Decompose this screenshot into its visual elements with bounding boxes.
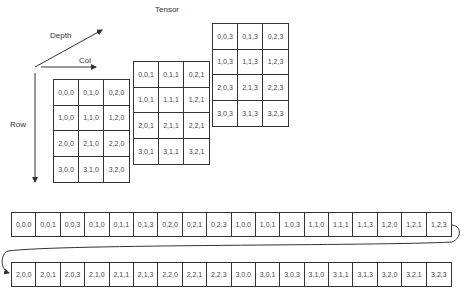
tensor-cell: 3,2,0: [104, 157, 129, 183]
tensor-cell: 0,0,3: [213, 24, 238, 50]
tensor-cell: 3,1,0: [79, 157, 104, 183]
tensor-cell: 2,0,0: [54, 131, 79, 157]
tensor-slice-depth-0: 0,0,0 0,1,0 0,2,0 1,0,0 1,1,0 1,2,0 2,0,…: [53, 79, 130, 183]
tensor-cell: 0,2,0: [104, 80, 129, 106]
col-axis-label: Col: [79, 56, 91, 65]
memory-cell: 0,0,1: [36, 213, 60, 236]
memory-cell: 1,2,3: [427, 213, 451, 236]
tensor-cell: 1,0,3: [213, 50, 238, 76]
tensor-cell: 2,2,1: [184, 113, 209, 139]
tensor-cell: 1,0,0: [54, 106, 79, 132]
memory-cell: 2,0,0: [12, 263, 36, 286]
tensor-cell: 3,0,1: [134, 139, 159, 165]
memory-cell: 1,0,0: [232, 213, 256, 236]
memory-cell: 3,1,3: [353, 263, 377, 286]
memory-cell: 0,1,0: [85, 213, 109, 236]
tensor-cell: 0,2,3: [263, 24, 288, 50]
row-axis-label: Row: [10, 120, 26, 129]
memory-cell: 2,0,3: [61, 263, 85, 286]
tensor-cell: 2,2,3: [263, 75, 288, 101]
tensor-cell: 0,0,0: [54, 80, 79, 106]
tensor-cell: 1,2,1: [184, 88, 209, 114]
memory-cell: 0,0,3: [61, 213, 85, 236]
tensor-cell: 1,2,0: [104, 106, 129, 132]
memory-cell: 3,1,0: [305, 263, 329, 286]
tensor-cell: 3,1,1: [159, 139, 184, 165]
tensor-cell: 2,2,0: [104, 131, 129, 157]
memory-cell: 2,1,0: [85, 263, 109, 286]
memory-cell: 3,0,3: [280, 263, 304, 286]
memory-cell: 3,2,3: [427, 263, 451, 286]
tensor-cell: 2,1,3: [238, 75, 263, 101]
tensor-cell: 0,2,1: [184, 62, 209, 88]
memory-cell: 1,0,3: [280, 213, 304, 236]
tensor-cell: 1,1,0: [79, 106, 104, 132]
tensor-cell: 3,0,3: [213, 101, 238, 127]
memory-cell: 2,0,1: [36, 263, 60, 286]
tensor-cell: 3,2,1: [184, 139, 209, 165]
memory-cell: 3,2,0: [378, 263, 402, 286]
memory-cell: 1,2,0: [378, 213, 402, 236]
memory-cell: 2,2,1: [183, 263, 207, 286]
tensor-cell: 1,0,1: [134, 88, 159, 114]
memory-cell: 1,2,1: [402, 213, 426, 236]
linear-layout-row-2: 2,0,0 2,0,1 2,0,3 2,1,0 2,1,1 2,1,3 2,2,…: [11, 262, 452, 287]
tensor-title: Tensor: [155, 5, 179, 14]
tensor-cell: 2,0,1: [134, 113, 159, 139]
memory-cell: 0,0,0: [12, 213, 36, 236]
tensor-slice-depth-3: 0,0,3 0,1,3 0,2,3 1,0,3 1,1,3 1,2,3 2,0,…: [212, 23, 289, 127]
memory-cell: 0,2,3: [207, 213, 231, 236]
depth-axis-label: Depth: [50, 31, 71, 40]
tensor-cell: 0,1,3: [238, 24, 263, 50]
tensor-cell: 0,0,1: [134, 62, 159, 88]
memory-cell: 0,1,3: [134, 213, 158, 236]
memory-cell: 0,1,1: [110, 213, 134, 236]
memory-cell: 3,1,1: [329, 263, 353, 286]
tensor-slice-depth-1: 0,0,1 0,1,1 0,2,1 1,0,1 1,1,1 1,2,1 2,0,…: [133, 61, 210, 165]
memory-cell: 0,2,1: [183, 213, 207, 236]
tensor-cell: 1,1,3: [238, 50, 263, 76]
memory-cell: 2,1,3: [134, 263, 158, 286]
tensor-cell: 2,0,3: [213, 75, 238, 101]
memory-cell: 3,0,1: [256, 263, 280, 286]
linear-layout-row-1: 0,0,0 0,0,1 0,0,3 0,1,0 0,1,1 0,1,3 0,2,…: [11, 212, 452, 237]
memory-cell: 1,1,1: [329, 213, 353, 236]
memory-cell: 2,1,1: [110, 263, 134, 286]
tensor-cell: 2,1,0: [79, 131, 104, 157]
memory-cell: 1,1,3: [353, 213, 377, 236]
memory-cell: 3,0,0: [232, 263, 256, 286]
tensor-cell: 3,1,3: [238, 101, 263, 127]
memory-cell: 2,2,0: [158, 263, 182, 286]
memory-cell: 1,0,1: [256, 213, 280, 236]
tensor-cell: 0,1,0: [79, 80, 104, 106]
tensor-cell: 0,1,1: [159, 62, 184, 88]
memory-cell: 2,2,3: [207, 263, 231, 286]
tensor-cell: 1,2,3: [263, 50, 288, 76]
tensor-cell: 1,1,1: [159, 88, 184, 114]
tensor-cell: 3,0,0: [54, 157, 79, 183]
tensor-cell: 2,1,1: [159, 113, 184, 139]
memory-cell: 0,2,0: [158, 213, 182, 236]
memory-cell: 3,2,1: [402, 263, 426, 286]
tensor-cell: 3,2,3: [263, 101, 288, 127]
memory-cell: 1,1,0: [305, 213, 329, 236]
